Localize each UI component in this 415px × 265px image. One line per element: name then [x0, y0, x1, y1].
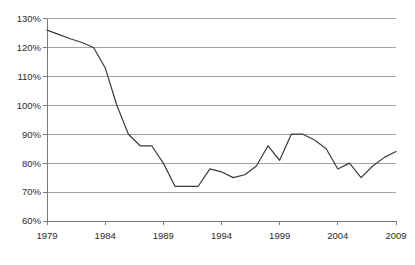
y-tick-label: 120%	[17, 42, 42, 53]
x-tick-label: 1984	[95, 230, 116, 241]
x-axis-tick-marks	[47, 221, 396, 225]
line-chart: 130%120%110%100%90%80%70%60% 19791984198…	[0, 0, 415, 265]
y-tick-label: 70%	[22, 186, 42, 197]
y-tick-label: 110%	[17, 71, 41, 82]
y-tick-label: 130%	[17, 13, 42, 24]
x-tick-label: 1999	[269, 230, 290, 241]
y-tick-label: 90%	[22, 129, 42, 140]
y-tick-label: 80%	[22, 158, 42, 169]
y-tick-label: 100%	[17, 100, 42, 111]
x-axis-tick-labels: 1979198419891994199920042009	[36, 230, 406, 241]
x-tick-label: 2004	[327, 230, 348, 241]
y-axis-tick-labels: 130%120%110%100%90%80%70%60%	[17, 13, 47, 227]
y-tick-label: 60%	[22, 215, 42, 226]
x-tick-label: 1994	[211, 230, 232, 241]
x-tick-label: 1979	[36, 230, 57, 241]
x-tick-label: 1989	[153, 230, 174, 241]
chart-container: 130%120%110%100%90%80%70%60% 19791984198…	[0, 0, 415, 265]
x-tick-label: 2009	[385, 230, 406, 241]
